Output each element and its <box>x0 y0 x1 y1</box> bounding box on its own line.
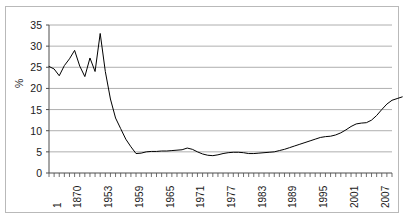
axis-lines <box>49 25 392 173</box>
data-series-group <box>49 33 402 155</box>
x-axis-ticks <box>49 173 392 177</box>
line-chart-plot <box>0 0 406 223</box>
chart-container: % 05101520253035 11870195319591965197119… <box>0 0 406 223</box>
